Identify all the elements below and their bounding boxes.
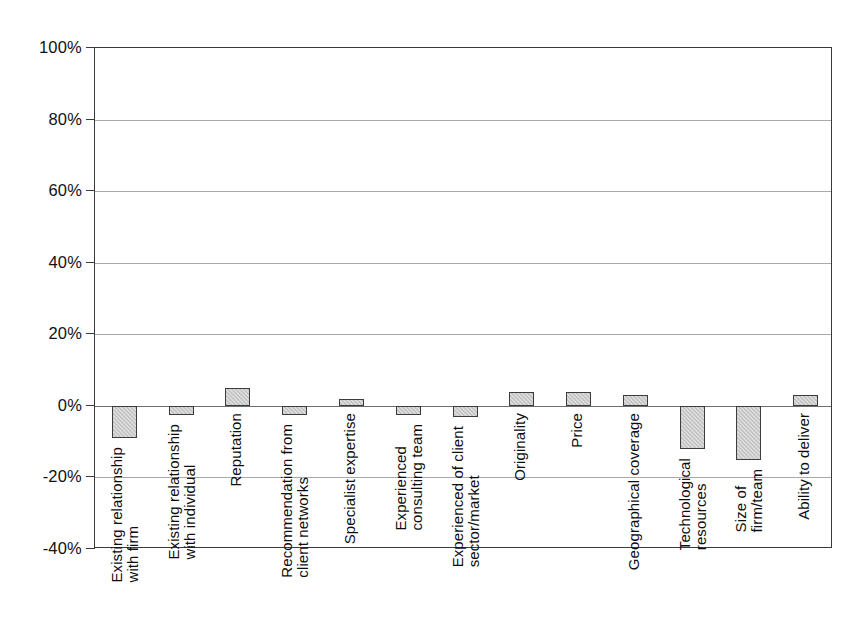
y-axis-tick-mark (86, 47, 95, 48)
y-axis-tick-label: 20% (48, 324, 82, 343)
x-axis-category-label: Recommendation from client networks (279, 424, 311, 578)
y-axis-tick-mark (86, 548, 95, 549)
bar (736, 406, 761, 460)
x-axis-category-label: Experienced consulting team (393, 424, 425, 531)
bar (793, 395, 818, 406)
bar (339, 399, 364, 406)
y-axis-tick-mark (86, 262, 95, 263)
y-axis-tick-mark (86, 190, 95, 191)
bar (453, 406, 478, 417)
x-axis-category-label: Ability to deliver (796, 413, 812, 520)
x-axis-category-label: Geographical coverage (626, 413, 642, 570)
x-axis-category-label: Originality (512, 413, 528, 481)
x-axis-category-label: Price (569, 413, 585, 448)
bar-chart: 100%80%60%40%20%0%-20%-40% Existing rela… (0, 0, 860, 632)
x-axis-category-label: Technological resources (677, 458, 709, 550)
y-axis-tick-label: 100% (39, 38, 82, 57)
gridline (95, 191, 831, 192)
bar (509, 392, 534, 406)
bar (282, 406, 307, 415)
bar (112, 406, 137, 438)
y-axis-tick-mark (86, 119, 95, 120)
x-axis-category-label: Existing relationship with firm (109, 447, 141, 583)
bar (680, 406, 705, 449)
y-axis-tick-label: 0% (58, 395, 82, 414)
x-axis-category-label: Reputation (228, 413, 244, 487)
x-axis-category-label: Specialist expertise (342, 413, 358, 544)
x-axis-category-label: Existing relationship with individual (166, 424, 198, 560)
y-axis-tick-mark (86, 333, 95, 334)
y-axis: 100%80%60%40%20%0%-20%-40% (0, 0, 82, 632)
bar (566, 392, 591, 406)
bar (225, 388, 250, 406)
bar (169, 406, 194, 415)
y-axis-tick-label: 80% (48, 109, 82, 128)
gridline (95, 263, 831, 264)
y-axis-tick-mark (86, 476, 95, 477)
bar (396, 406, 421, 415)
bar (623, 395, 648, 406)
gridline (95, 120, 831, 121)
x-axis-category-label: Experienced of client sector/market (450, 426, 482, 567)
y-axis-tick-label: -20% (43, 467, 82, 486)
gridline (95, 334, 831, 335)
y-axis-tick-label: -40% (43, 539, 82, 558)
x-axis-category-label: Size of firm/team (733, 469, 765, 532)
y-axis-tick-label: 40% (48, 252, 82, 271)
y-axis-tick-label: 60% (48, 181, 82, 200)
y-axis-tick-mark (86, 405, 95, 406)
